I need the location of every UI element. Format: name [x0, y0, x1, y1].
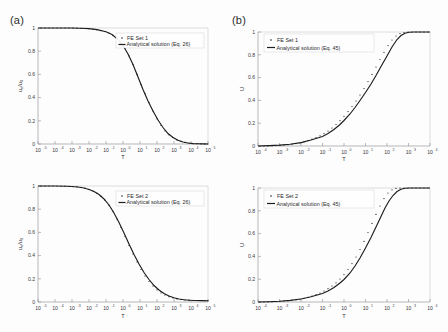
- ytick-label: 0.8: [248, 208, 255, 214]
- panel-d-xlabel: T: [342, 313, 346, 319]
- xtick-base: 10: [406, 149, 412, 155]
- xtick-exp: -3: [285, 148, 288, 152]
- xtick-base: 10: [52, 305, 58, 311]
- xtick-exp: 4: [197, 304, 199, 308]
- ytick-label: 0.6: [28, 229, 35, 235]
- panel-d-xtick-labels: 10 -4 10 -3 10 -2 10 -1 10 0 10 1 10 2 1…: [255, 304, 437, 311]
- xtick-exp: -4: [264, 304, 267, 308]
- panel-c-yticks: [38, 186, 41, 302]
- ytick-label: 0.2: [248, 120, 255, 126]
- xtick-exp: 0: [350, 304, 352, 308]
- panel-a-xtick-labels: 10 -5 10 -4 10 -3 10 -2 10 -1 10 0 10 1 …: [35, 146, 215, 153]
- panel-a-xlabel: T: [121, 154, 125, 160]
- xtick-base: 10: [120, 147, 126, 153]
- ytick-label: 1: [252, 29, 255, 35]
- xtick-exp: -1: [328, 148, 331, 152]
- xtick-base: 10: [320, 149, 326, 155]
- xtick-exp: -5: [44, 304, 47, 308]
- xtick-exp: 3: [180, 304, 182, 308]
- xtick-base: 10: [341, 305, 347, 311]
- xtick-exp: 1: [146, 146, 148, 150]
- svg-text:U: U: [239, 87, 245, 91]
- xtick-base: 10: [154, 305, 160, 311]
- legend-marker-label: FE Set 1: [127, 35, 148, 41]
- ylabel-sub: 0: [20, 80, 24, 82]
- xtick-base: 10: [298, 305, 304, 311]
- xtick-exp: 1: [371, 148, 373, 152]
- panel-c-ytick-labels: 0 0.2 0.4 0.6 0.8 1: [28, 183, 35, 305]
- xtick-exp: -2: [95, 146, 98, 150]
- xtick-exp: 3: [414, 304, 416, 308]
- ytick-label: 0.4: [28, 94, 35, 100]
- panel-c-legend: FE Set 2 Analytical solution (Eq. 26): [116, 191, 204, 206]
- legend-marker-label: FE Set 1: [277, 37, 298, 43]
- ytick-label: 0.4: [248, 97, 255, 103]
- panel-c-xlabel: T: [121, 313, 125, 319]
- panel-a-ylabel: ue/u0: [17, 80, 24, 92]
- ytick-label: 0.8: [28, 48, 35, 54]
- legend-marker-dot: [270, 195, 272, 197]
- panel-c-plot: 0 0.2 0.4 0.6 0.8 1 10: [0, 166, 224, 332]
- ytick-label: 0.2: [248, 276, 255, 282]
- xtick-base: 10: [103, 147, 109, 153]
- xtick-base: 10: [341, 149, 347, 155]
- xtick-exp: -2: [307, 148, 310, 152]
- figure-container: (a) 0 0.2 0.4 0.6 0.8: [0, 0, 448, 332]
- xtick-exp: 2: [393, 148, 395, 152]
- xtick-base: 10: [363, 305, 369, 311]
- legend-marker-label: FE Set 2: [277, 193, 298, 199]
- panel-b-xtick-labels: 10 -4 10 -3 10 -2 10 -1 10 0 10 1 10 2 1…: [255, 148, 437, 155]
- xtick-base: 10: [35, 305, 41, 311]
- xtick-base: 10: [320, 305, 326, 311]
- ytick-label: 1: [252, 185, 255, 191]
- xtick-base: 10: [406, 305, 412, 311]
- xtick-base: 10: [188, 305, 194, 311]
- ytick-label: 0.4: [28, 252, 35, 258]
- panel-d: 0 0.2 0.4 0.6 0.8 1 10 -4 1: [224, 166, 448, 332]
- xtick-base: 10: [171, 305, 177, 311]
- xtick-base: 10: [298, 149, 304, 155]
- panel-b-legend: FE Set 1 Analytical solution (Eq. 45): [264, 34, 374, 52]
- xtick-exp: 4: [197, 146, 199, 150]
- xtick-exp: 3: [180, 146, 182, 150]
- xtick-exp: -1: [112, 146, 115, 150]
- panel-a: (a) 0 0.2 0.4 0.6 0.8: [0, 0, 224, 166]
- panel-d-ylabel: U: [239, 243, 245, 247]
- xtick-base: 10: [427, 149, 433, 155]
- ytick-label: 0.4: [248, 253, 255, 259]
- xtick-base: 10: [277, 305, 283, 311]
- xtick-exp: -3: [78, 146, 81, 150]
- svg-text:U: U: [239, 243, 245, 247]
- ytick-label: 0: [252, 299, 255, 305]
- ytick-label: 0.6: [28, 71, 35, 77]
- panel-b-plot: 0 0.2 0.4 0.6 0.8 1 10 -4 1: [224, 0, 448, 166]
- xtick-exp: 3: [414, 148, 416, 152]
- panel-d-plot: 0 0.2 0.4 0.6 0.8 1 10 -4 1: [224, 166, 448, 332]
- legend-marker-dot: [270, 39, 272, 41]
- xtick-base: 10: [205, 305, 211, 311]
- panel-a-yticks: [38, 28, 41, 144]
- xtick-exp: 2: [163, 146, 165, 150]
- panel-c-xtick-labels: 10 -5 10 -4 10 -3 10 -2 10 -1 10 0 10 1 …: [35, 304, 215, 311]
- panel-b-ylabel: U: [239, 87, 245, 91]
- panel-c-ylabel: ue/u0: [17, 238, 24, 250]
- xtick-base: 10: [205, 147, 211, 153]
- xtick-exp: 4: [436, 148, 438, 152]
- xtick-exp: 0: [350, 148, 352, 152]
- xtick-base: 10: [188, 147, 194, 153]
- xtick-exp: -3: [78, 304, 81, 308]
- xtick-base: 10: [69, 147, 75, 153]
- xtick-exp: -1: [328, 304, 331, 308]
- ytick-label: 0.2: [28, 276, 35, 282]
- xtick-base: 10: [137, 305, 143, 311]
- xtick-exp: 0: [129, 304, 131, 308]
- xtick-base: 10: [35, 147, 41, 153]
- ytick-label: 0.8: [28, 206, 35, 212]
- xtick-base: 10: [137, 147, 143, 153]
- legend-marker-dot: [121, 195, 123, 197]
- xtick-base: 10: [52, 147, 58, 153]
- legend-marker-dot: [121, 37, 123, 39]
- xtick-base: 10: [363, 149, 369, 155]
- xtick-exp: -2: [307, 304, 310, 308]
- xtick-exp: 1: [146, 304, 148, 308]
